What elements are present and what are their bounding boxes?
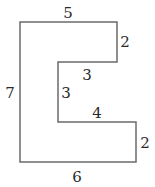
label-upper-right: 2 <box>120 33 130 51</box>
label-lower-right: 2 <box>140 134 150 152</box>
label-left: 7 <box>5 84 15 102</box>
label-upper-inner-horizontal: 3 <box>82 66 92 84</box>
label-inner-vertical: 3 <box>61 84 71 102</box>
shape-diagram: 5 2 3 3 7 4 2 6 <box>0 0 155 187</box>
polygon-outline <box>20 22 136 162</box>
label-lower-inner-horizontal: 4 <box>92 104 102 122</box>
label-bottom: 6 <box>72 168 82 186</box>
label-top: 5 <box>63 4 73 22</box>
